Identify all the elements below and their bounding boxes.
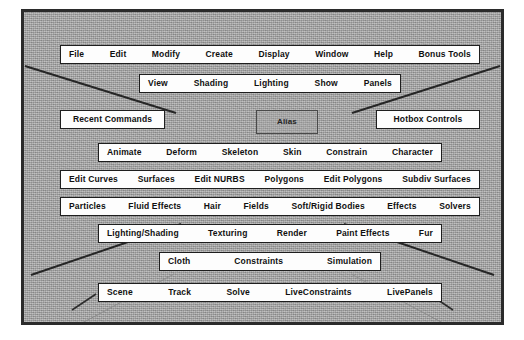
hotbox-controls-label: Hotbox Controls: [393, 115, 464, 124]
cloth-menu-row[interactable]: Cloth Constraints Simulation: [159, 252, 381, 271]
menu-item-display[interactable]: Display: [257, 50, 290, 59]
rendering-menu-row[interactable]: Lighting/Shading Texturing Render Paint …: [98, 224, 442, 243]
menu-item-particles[interactable]: Particles: [68, 202, 107, 211]
alias-label: Alias: [276, 118, 298, 126]
menu-item-liveconstraints[interactable]: LiveConstraints: [284, 288, 353, 297]
menu-item-fur[interactable]: Fur: [418, 229, 434, 238]
menu-item-texturing[interactable]: Texturing: [207, 229, 248, 238]
main-menu-row[interactable]: File Edit Modify Create Display Window H…: [60, 45, 480, 64]
alias-center-marker[interactable]: Alias: [256, 110, 318, 134]
menu-item-solvers[interactable]: Solvers: [438, 202, 472, 211]
menu-item-lighting-shading[interactable]: Lighting/Shading: [106, 229, 180, 238]
menu-item-panels[interactable]: Panels: [363, 79, 393, 88]
menu-item-edit[interactable]: Edit: [109, 50, 128, 59]
menu-item-animate[interactable]: Animate: [106, 148, 143, 157]
modeling-menu-row[interactable]: Edit Curves Surfaces Edit NURBS Polygons…: [60, 170, 480, 189]
menu-item-polygons[interactable]: Polygons: [263, 175, 304, 184]
menu-item-view[interactable]: View: [147, 79, 169, 88]
menu-item-solve[interactable]: Solve: [225, 288, 250, 297]
menu-item-skin[interactable]: Skin: [282, 148, 303, 157]
menu-item-livepanels[interactable]: LivePanels: [386, 288, 434, 297]
menu-item-simulation[interactable]: Simulation: [326, 257, 373, 266]
hotbox-controls-button[interactable]: Hotbox Controls: [376, 110, 480, 129]
menu-item-window[interactable]: Window: [314, 50, 349, 59]
menu-item-deform[interactable]: Deform: [165, 148, 198, 157]
menu-item-character[interactable]: Character: [391, 148, 434, 157]
menu-item-effects[interactable]: Effects: [386, 202, 417, 211]
menu-item-render[interactable]: Render: [276, 229, 308, 238]
menu-item-show[interactable]: Show: [314, 79, 339, 88]
menu-item-fields[interactable]: Fields: [242, 202, 269, 211]
menu-item-track[interactable]: Track: [167, 288, 192, 297]
maya-viewport: File Edit Modify Create Display Window H…: [21, 9, 504, 325]
menu-item-bonus-tools[interactable]: Bonus Tools: [417, 50, 472, 59]
menu-item-surfaces[interactable]: Surfaces: [137, 175, 176, 184]
menu-item-help[interactable]: Help: [373, 50, 394, 59]
menu-item-create[interactable]: Create: [205, 50, 234, 59]
menu-item-constrain[interactable]: Constrain: [325, 148, 368, 157]
panel-menu-row[interactable]: View Shading Lighting Show Panels: [139, 74, 401, 93]
menu-item-skeleton[interactable]: Skeleton: [221, 148, 260, 157]
menu-item-edit-nurbs[interactable]: Edit NURBS: [194, 175, 246, 184]
menu-item-hair[interactable]: Hair: [203, 202, 222, 211]
menu-item-shading[interactable]: Shading: [193, 79, 230, 88]
dynamics-menu-row[interactable]: Particles Fluid Effects Hair Fields Soft…: [60, 197, 480, 216]
menu-item-modify[interactable]: Modify: [151, 50, 181, 59]
animation-menu-row[interactable]: Animate Deform Skeleton Skin Constrain C…: [98, 143, 442, 162]
menu-item-soft-rigid-bodies[interactable]: Soft/Rigid Bodies: [290, 202, 365, 211]
menu-item-subdiv-surfaces[interactable]: Subdiv Surfaces: [401, 175, 472, 184]
menu-item-lighting[interactable]: Lighting: [253, 79, 290, 88]
menu-item-scene[interactable]: Scene: [106, 288, 134, 297]
live-menu-row[interactable]: Scene Track Solve LiveConstraints LivePa…: [98, 283, 442, 302]
screenshot-canvas: File Edit Modify Create Display Window H…: [0, 0, 524, 340]
recent-commands-button[interactable]: Recent Commands: [60, 110, 165, 129]
recent-commands-label: Recent Commands: [72, 115, 153, 124]
menu-item-constraints[interactable]: Constraints: [233, 257, 284, 266]
menu-item-cloth[interactable]: Cloth: [167, 257, 191, 266]
menu-item-fluid-effects[interactable]: Fluid Effects: [127, 202, 182, 211]
menu-item-edit-polygons[interactable]: Edit Polygons: [323, 175, 384, 184]
menu-item-file[interactable]: File: [68, 50, 85, 59]
menu-item-paint-effects[interactable]: Paint Effects: [335, 229, 390, 238]
menu-item-edit-curves[interactable]: Edit Curves: [68, 175, 119, 184]
